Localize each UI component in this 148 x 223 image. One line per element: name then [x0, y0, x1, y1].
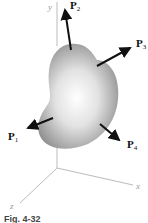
label-P4: P4 — [127, 138, 138, 152]
force-P2: P2 — [65, 0, 81, 50]
label-P1: P1 — [8, 130, 19, 144]
label-P3: P3 — [136, 37, 147, 51]
x-axis — [57, 168, 133, 185]
y-axis-label: y — [47, 2, 52, 12]
rigid-body-diagram: y x z P1 P2 P3 P4 Fig. 4-32 — [0, 0, 148, 223]
z-axis — [20, 168, 57, 203]
figure-caption: Fig. 4-32 — [4, 214, 41, 223]
rigid-body — [38, 44, 118, 149]
arrow-P2 — [65, 10, 71, 50]
x-axis-label: x — [135, 181, 140, 191]
label-P2: P2 — [70, 0, 81, 13]
z-axis-label: z — [9, 201, 14, 211]
force-P3: P3 — [97, 37, 147, 66]
arrow-P3 — [97, 48, 130, 66]
force-P4: P4 — [100, 124, 138, 152]
